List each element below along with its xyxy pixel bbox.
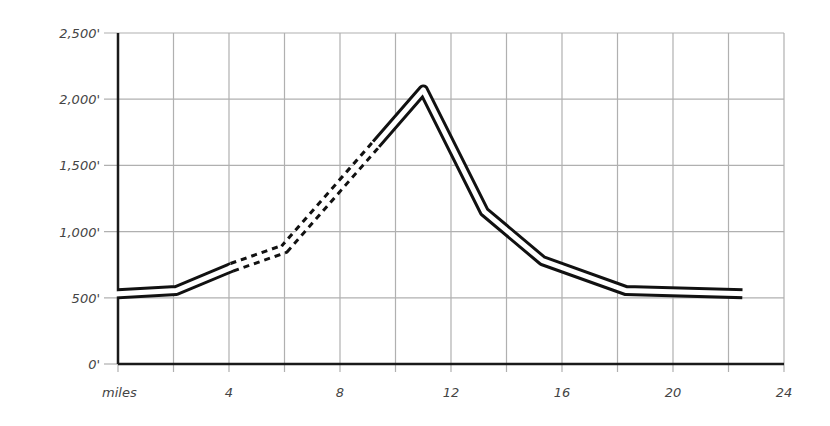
x-tick-label: 16 — [554, 385, 571, 400]
x-tick-label: 4 — [225, 385, 233, 400]
y-tick-label: 2,500' — [59, 26, 100, 41]
y-tick-label: 1,500' — [59, 158, 100, 173]
y-tick-label: 0' — [88, 357, 100, 372]
x-tick-label: 24 — [776, 385, 793, 400]
y-tick-label: 2,000' — [59, 92, 100, 107]
elevation-line — [118, 90, 742, 294]
grid-lines — [104, 33, 784, 372]
elevation-profile-chart: 0'500'1,000'1,500'2,000'2,500' miles4812… — [0, 0, 830, 426]
x-axis-ticks: miles4812162024 — [102, 385, 792, 400]
elevation-line-dashed-outer — [232, 144, 376, 267]
elevation-line-outer — [376, 90, 742, 294]
y-axis-ticks: 0'500'1,000'1,500'2,000'2,500' — [59, 26, 100, 372]
x-tick-label: 20 — [665, 385, 682, 400]
x-tick-label: 12 — [443, 385, 460, 400]
x-tick-label: 8 — [336, 385, 344, 400]
y-tick-label: 500' — [72, 291, 100, 306]
y-tick-label: 1,000' — [59, 225, 100, 240]
x-axis-unit-label: miles — [102, 385, 137, 400]
